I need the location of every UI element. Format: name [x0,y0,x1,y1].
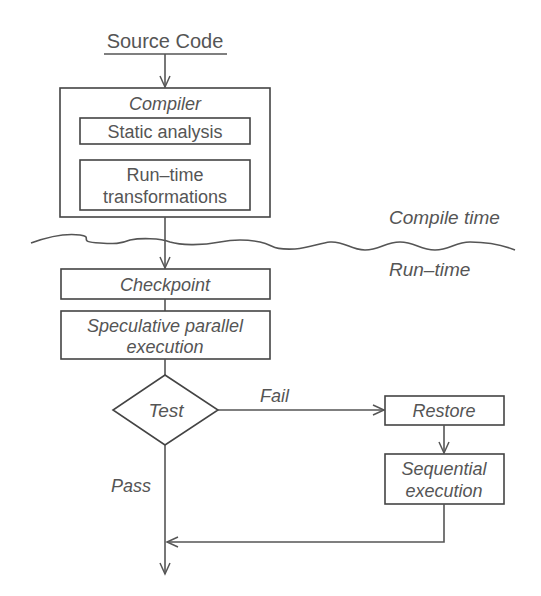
compile-time-label: Compile time [389,207,500,228]
test-decision: Test [113,375,218,445]
flowchart-canvas: Source Code Compiler Static analysis Run… [0,0,541,596]
arrow-sequential-return [167,504,444,542]
source-code-node: Source Code [104,30,227,54]
checkpoint-box: Checkpoint [61,269,270,299]
sequential-line2: execution [405,481,482,501]
sequential-execution-box: Sequential execution [385,454,504,504]
checkpoint-label: Checkpoint [120,275,211,295]
compiler-title: Compiler [129,94,202,114]
source-code-label: Source Code [107,30,224,52]
test-label: Test [148,400,184,421]
compiler-box: Compiler Static analysis Run–time transf… [60,88,270,217]
speculative-line2: execution [126,337,203,357]
fail-label: Fail [260,386,290,406]
runtime-transformations-line2: transformations [103,187,227,207]
speculative-line1: Speculative parallel [87,316,244,336]
run-time-label: Run–time [389,259,470,280]
restore-label: Restore [412,401,475,421]
runtime-transformations-line1: Run–time [126,165,203,185]
sequential-line1: Sequential [401,459,487,479]
restore-box: Restore [385,396,504,425]
speculative-execution-box: Speculative parallel execution [61,311,270,359]
static-analysis-label: Static analysis [107,122,222,142]
compile-run-separator [31,234,515,250]
pass-label: Pass [111,476,151,496]
